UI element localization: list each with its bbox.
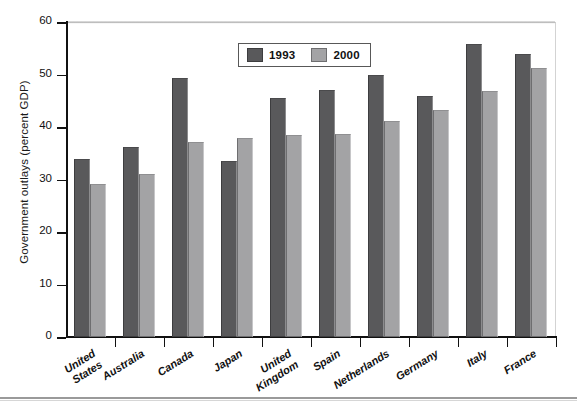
y-tick-label-50: 50 [39,67,52,79]
bar-chart-figure: Government outlays (percent GDP) 0102030… [0,0,577,414]
x-tick-6 [409,338,410,347]
y-tick-60: 60 [57,22,66,24]
bar-1993-canada [172,78,188,337]
x-tick-2 [213,338,214,347]
y-tick-label-40: 40 [39,119,52,131]
y-tick-label-30: 30 [39,172,52,184]
footer-rule-secondary [0,400,577,401]
x-tick-1 [164,338,165,347]
chart-legend: 1993 2000 [238,43,371,67]
bar-1993-netherlands [368,75,384,338]
y-axis-line [66,21,68,338]
y-tick-10: 10 [57,285,66,287]
bar-1993-united-kingdom [270,98,286,337]
bar-2000-netherlands [384,121,400,337]
bar-2000-spain [335,134,351,337]
bar-2000-canada [188,142,204,337]
y-tick-50: 50 [57,75,66,77]
y-tick-label-60: 60 [39,14,52,26]
bar-2000-france [531,68,547,337]
bar-2000-united-states [90,184,106,337]
bar-2000-germany [433,110,449,337]
x-tick-4 [311,338,312,347]
x-tick-3 [262,338,263,347]
footer-rule [0,397,577,399]
bar-1993-united-states [74,159,90,338]
y-tick-label-20: 20 [39,224,52,236]
y-tick-30: 30 [57,180,66,182]
bar-1993-japan [221,161,237,337]
bar-1993-australia [123,147,139,337]
legend-swatch-2000-icon [311,48,327,62]
legend-item-1993: 1993 [247,48,295,62]
legend-label-1993: 1993 [269,49,295,61]
y-axis-title: Government outlays (percent GDP) [18,52,30,292]
bar-2000-australia [139,174,155,337]
x-tick-5 [360,338,361,347]
y-tick-40: 40 [57,127,66,129]
y-tick-label-0: 0 [46,329,52,341]
x-tick-9 [556,338,557,347]
bar-1993-germany [417,96,433,338]
bar-1993-italy [466,44,482,337]
y-tick-0: 0 [57,337,66,339]
x-tick-8 [507,338,508,347]
x-tick-7 [458,338,459,347]
bar-2000-italy [482,91,498,337]
legend-label-2000: 2000 [333,49,359,61]
legend-item-2000: 2000 [311,48,359,62]
y-tick-label-10: 10 [39,277,52,289]
bar-2000-united-kingdom [286,135,302,337]
bar-1993-france [515,54,531,337]
bar-2000-japan [237,138,253,338]
y-tick-20: 20 [57,232,66,234]
x-tick-0 [115,338,116,347]
legend-swatch-1993-icon [247,48,263,62]
bar-1993-spain [319,90,335,337]
